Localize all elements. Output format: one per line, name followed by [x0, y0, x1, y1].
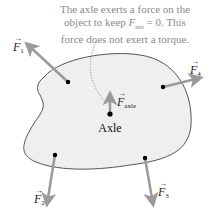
application-point-f2 [53, 153, 57, 157]
label-f4: F4 → [189, 57, 201, 78]
application-point-f1 [66, 80, 70, 84]
svg-text:→: → [35, 186, 43, 195]
svg-text:→: → [118, 89, 126, 98]
label-f1: F1 → [12, 34, 24, 55]
axle-label: Axle [98, 121, 121, 135]
svg-text:→: → [159, 179, 167, 188]
application-point-f4 [161, 85, 165, 89]
label-f2: F2 → [33, 186, 45, 207]
application-point-f3 [143, 156, 147, 160]
axle-point [107, 111, 112, 116]
label-f3: F3 → [157, 179, 169, 200]
rigid-body-diagram: F1 → F4 → Faxle → F2 → F3 → Axle [0, 0, 216, 218]
extended-object-body [24, 54, 191, 170]
svg-text:→: → [191, 57, 199, 66]
svg-text:→: → [14, 34, 22, 43]
